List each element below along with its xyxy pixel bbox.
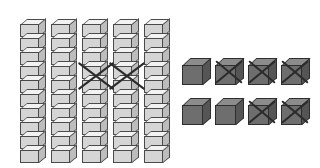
unit-cube-4[interactable]	[281, 58, 311, 86]
unit-cubes-group	[0, 0, 320, 168]
unit-cube-7[interactable]	[248, 98, 278, 126]
cube-front-face	[215, 105, 236, 125]
unit-cube-5[interactable]	[182, 98, 212, 126]
blocks-canvas	[0, 0, 320, 168]
unit-cube-8[interactable]	[281, 98, 311, 126]
cube-front-face	[281, 65, 302, 85]
cube-front-face	[248, 65, 269, 85]
unit-cube-1[interactable]	[182, 58, 212, 86]
cube-front-face	[182, 65, 203, 85]
unit-cube-6[interactable]	[215, 98, 245, 126]
cube-front-face	[248, 105, 269, 125]
cube-front-face	[182, 105, 203, 125]
unit-cube-3[interactable]	[248, 58, 278, 86]
cube-front-face	[215, 65, 236, 85]
unit-cube-2[interactable]	[215, 58, 245, 86]
cube-front-face	[281, 105, 302, 125]
